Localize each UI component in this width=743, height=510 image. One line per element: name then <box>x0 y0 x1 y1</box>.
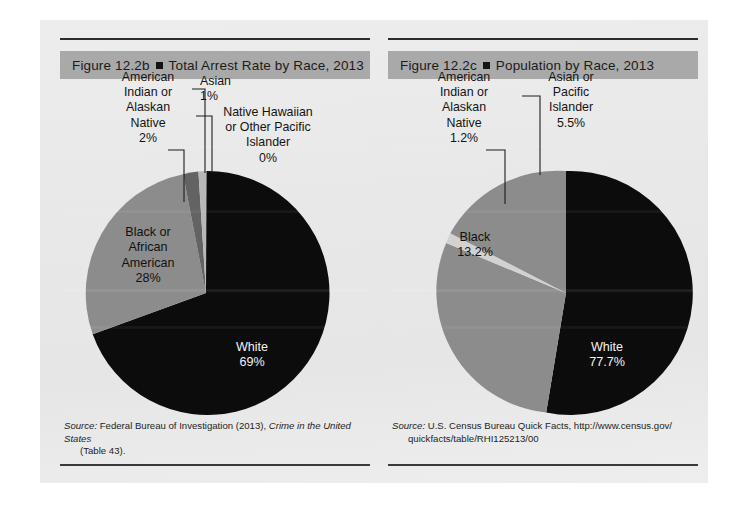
callout-native-hawaiian-or-other-pacific-islander: Native Hawaiian or Other Pacific Islande… <box>212 105 324 166</box>
leader-line-native-hawaiian <box>196 116 212 172</box>
slice-label-white: White 77.7% <box>570 340 644 371</box>
slice-label-black: Black 13.2% <box>438 230 512 261</box>
figure-bottom-rule <box>60 464 370 466</box>
figure-12-2b: Figure 12.2bTotal Arrest Rate by Race, 2… <box>60 20 370 483</box>
callout-asian: Asian 1% <box>200 74 258 104</box>
source-text-a: Federal Bureau of Investigation (2013), <box>97 420 269 431</box>
source-prefix: Source: <box>64 420 97 431</box>
scanned-page-panel: Figure 12.2bTotal Arrest Rate by Race, 2… <box>40 20 708 483</box>
slice-label-white: White 69% <box>218 340 286 371</box>
figure-12-2b-source: Source: Federal Bureau of Investigation … <box>64 420 364 458</box>
callout-asian-or-pacific-islander: Asian or Pacific Islander 5.5% <box>528 70 614 131</box>
figure-12-2c-pie-area: American Indian or Alaskan Native 1.2% A… <box>388 20 698 483</box>
slice-label-black-or-african-american: Black or African American 28% <box>102 225 194 287</box>
callout-american-indian-or-alaskan-native: American Indian or Alaskan Native 1.2% <box>426 70 502 146</box>
source-text-line2: quickfacts/table/RHI125213/00 <box>392 433 692 446</box>
figure-bottom-rule <box>388 464 698 466</box>
callout-american-indian-or-alaskan-native: American Indian or Alaskan Native 2% <box>110 70 186 146</box>
source-text-a: U.S. Census Bureau Quick Facts, http://w… <box>425 420 672 431</box>
figure-12-2c-source: Source: U.S. Census Bureau Quick Facts, … <box>392 420 692 445</box>
figure-12-2b-pie-area: American Indian or Alaskan Native 2% Asi… <box>60 20 370 483</box>
source-prefix: Source: <box>392 420 425 431</box>
figure-12-2c: Figure 12.2cPopulation by Race, 2013 <box>388 20 698 483</box>
page-root: Figure 12.2bTotal Arrest Rate by Race, 2… <box>0 0 743 510</box>
source-text-line2: (Table 43). <box>64 445 364 458</box>
pie-slice-white <box>546 171 693 415</box>
